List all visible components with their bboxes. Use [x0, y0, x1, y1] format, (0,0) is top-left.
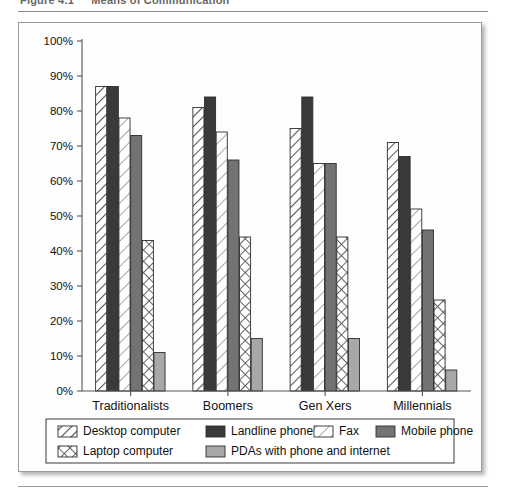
bar: Fax — Boomers: 74% [216, 132, 227, 391]
legend-label: Desktop computer [83, 424, 180, 438]
legend-label: Laptop computer [83, 444, 173, 458]
bar: Mobile phone — Boomers: 66% [228, 160, 239, 391]
bar: Fax — Traditionalists: 78% [119, 118, 130, 391]
bar: Fax — Gen Xers: 65% [313, 164, 324, 392]
y-axis-tick-label: 80% [50, 105, 73, 117]
legend-swatch [206, 446, 225, 457]
bar: Desktop computer — Gen Xers: 75% [290, 129, 301, 392]
y-axis-tick-label: 50% [50, 210, 73, 222]
y-axis-tick-label: 30% [50, 280, 73, 292]
bar: Mobile phone — Millennials: 46% [422, 230, 433, 391]
figure-caption-number: Figure 4.1 [20, 0, 74, 6]
figure-caption: Figure 4.1 Means of Communication [20, 0, 460, 8]
x-axis-category-label: Boomers [203, 399, 253, 413]
x-axis-category-label: Gen Xers [299, 399, 352, 413]
bar: Desktop computer — Traditionalists: 87% [96, 87, 107, 392]
y-axis: 0%10%20%30%40%50%60%70%80%90%100% [44, 35, 82, 397]
legend-label: Landline phone [231, 424, 313, 438]
bar: Mobile phone — Gen Xers: 65% [325, 164, 336, 392]
page-bottom-divider [18, 486, 488, 487]
bar: PDAs with phone and internet — Tradition… [154, 353, 165, 392]
bar: PDAs with phone and internet — Boomers: … [251, 339, 262, 392]
y-axis-tick-label: 10% [50, 350, 73, 362]
bars-group: Desktop computer — Traditionalists: 87%L… [96, 87, 457, 392]
bar: Desktop computer — Boomers: 81% [193, 108, 204, 392]
x-axis-category-label: Millennials [393, 399, 451, 413]
caption-divider [18, 11, 488, 12]
chart-legend: Desktop computerLandline phoneFaxMobile … [46, 419, 473, 463]
y-axis-tick-label: 20% [50, 315, 73, 327]
bar: Desktop computer — Millennials: 71% [387, 143, 398, 392]
legend-label: Fax [339, 424, 359, 438]
y-axis-tick-label: 60% [50, 175, 73, 187]
legend-label: Mobile phone [401, 424, 473, 438]
figure-caption-title: Means of Communication [91, 0, 229, 6]
figure-frame: 0%10%20%30%40%50%60%70%80%90%100% Deskto… [18, 22, 482, 472]
legend-swatch [314, 426, 333, 437]
legend-swatch [58, 426, 77, 437]
y-axis-tick-label: 40% [50, 245, 73, 257]
x-axis-category-label: Traditionalists [92, 399, 169, 413]
bar: Landline phone — Millennials: 67% [399, 157, 410, 392]
bar: Landline phone — Gen Xers: 84% [302, 97, 313, 391]
bar: PDAs with phone and internet — Millennia… [446, 370, 457, 391]
bar: PDAs with phone and internet — Gen Xers:… [348, 339, 359, 392]
bar: Fax — Millennials: 52% [411, 209, 422, 391]
bar: Laptop computer — Gen Xers: 44% [337, 237, 348, 391]
bar-chart: 0%10%20%30%40%50%60%70%80%90%100% Deskto… [19, 23, 481, 471]
y-axis-tick-label: 100% [44, 35, 73, 47]
legend-label: PDAs with phone and internet [231, 444, 390, 458]
legend-swatch [376, 426, 395, 437]
bar: Landline phone — Boomers: 84% [205, 97, 216, 391]
legend-swatch [206, 426, 225, 437]
y-axis-tick-label: 0% [56, 385, 73, 397]
x-axis: TraditionalistsBoomersGen XersMillennial… [82, 391, 471, 413]
bar: Landline phone — Traditionalists: 87% [107, 87, 118, 392]
bar: Mobile phone — Traditionalists: 73% [131, 136, 142, 392]
y-axis-tick-label: 70% [50, 140, 73, 152]
bar: Laptop computer — Traditionalists: 43% [142, 241, 153, 392]
bar: Laptop computer — Boomers: 44% [240, 237, 251, 391]
legend-swatch [58, 446, 77, 457]
bar: Laptop computer — Millennials: 26% [434, 300, 445, 391]
y-axis-tick-label: 90% [50, 70, 73, 82]
chart-area: 0%10%20%30%40%50%60%70%80%90%100% Deskto… [19, 23, 481, 471]
